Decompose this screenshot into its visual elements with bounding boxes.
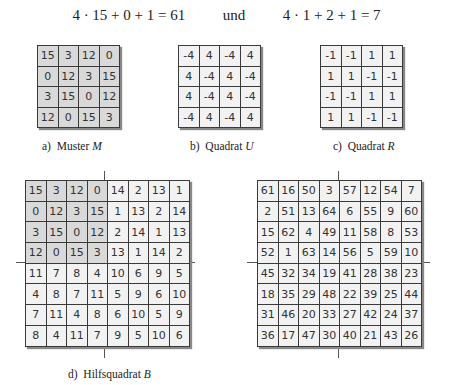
grid-cell: 15	[79, 107, 100, 128]
grid-cell: -1	[382, 107, 403, 128]
grid-cell: 12	[46, 201, 67, 222]
grid-row: -44-44	[179, 107, 261, 128]
grid-cell: 10	[401, 243, 422, 264]
grid-cell: 13	[169, 222, 190, 243]
grid-cell: 7	[46, 263, 67, 284]
grid-cell: 13	[299, 201, 320, 222]
equation-connector: und	[223, 7, 246, 24]
grid-cell: 9	[128, 284, 149, 305]
grid-cell: 8	[381, 222, 402, 243]
grid-row: 153120142131	[26, 181, 190, 202]
grid-row: -1-111	[321, 87, 403, 108]
grid-cell: 1	[341, 107, 362, 128]
grid-cell: 60	[401, 201, 422, 222]
grid-cell: 12	[38, 107, 59, 128]
grid-cell: 4	[87, 263, 108, 284]
grid-row: 2511364655960	[258, 201, 422, 222]
grid-cell: -1	[362, 107, 383, 128]
grid-cell: 32	[278, 263, 299, 284]
grid-cell: 12	[87, 222, 108, 243]
grid-cell: 1	[362, 46, 383, 67]
grid-cell: 9	[381, 201, 402, 222]
grid-cell: -4	[240, 66, 261, 87]
grid-cell: -1	[362, 66, 383, 87]
grid-cell: 12	[58, 66, 79, 87]
grid-cell: 4	[299, 222, 320, 243]
grid-cell: 41	[340, 263, 361, 284]
grid-cell: 11	[67, 325, 88, 346]
quadrat-r-grid: -1-11111-1-1-1-11111-1-1	[320, 45, 403, 128]
grid-cell: 52	[258, 243, 279, 264]
grid-cell: 21	[360, 325, 381, 346]
grid-cell: 50	[299, 181, 320, 202]
grid-cell: -4	[199, 66, 220, 87]
grid-row: 61165035712547	[258, 181, 422, 202]
grid-cell: 6	[149, 284, 170, 305]
grid-cell: 5	[108, 284, 129, 305]
grid-cell: 44	[401, 284, 422, 305]
grid-cell: 10	[108, 263, 129, 284]
grid-cell: 17	[278, 325, 299, 346]
grid-cell: 3	[58, 46, 79, 67]
grid-cell: 1	[169, 181, 190, 202]
grid-cell: 14	[108, 181, 129, 202]
grid-row: -1-111	[321, 46, 403, 67]
grid-cell: 13	[128, 201, 149, 222]
grid-row: 8411795106	[26, 325, 190, 346]
grid-cell: 59	[381, 243, 402, 264]
grid-row: 012315	[38, 66, 120, 87]
grid-row: 11-1-1	[321, 107, 403, 128]
grid-cell: 36	[258, 325, 279, 346]
grid-cell: 11	[340, 222, 361, 243]
grid-cell: 15	[99, 66, 120, 87]
grid-cell: 15	[38, 46, 59, 67]
grid-cell: 1	[341, 66, 362, 87]
grid-cell: 6	[128, 263, 149, 284]
grid-cell: 16	[278, 181, 299, 202]
grid-cell: 15	[46, 222, 67, 243]
grid-cell: 31	[258, 305, 279, 326]
grid-row: 15624491158853	[258, 222, 422, 243]
grid-cell: 29	[299, 284, 320, 305]
grid-cell: 3	[26, 222, 47, 243]
grid-cell: 20	[299, 305, 320, 326]
grid-cell: 5	[169, 263, 190, 284]
grid-cell: 45	[258, 263, 279, 284]
grid-row: 4-44-4	[179, 66, 261, 87]
grid-cell: 25	[381, 284, 402, 305]
grid-cell: 12	[26, 243, 47, 264]
grid-cell: 3	[319, 181, 340, 202]
grid-cell: 1	[382, 87, 403, 108]
grid-cell: 9	[169, 305, 190, 326]
grid-cell: 12	[360, 181, 381, 202]
grid-cell: 58	[360, 222, 381, 243]
grid-cell: 7	[87, 325, 108, 346]
grid-cell: -4	[179, 46, 200, 67]
grid-cell: 0	[79, 87, 100, 108]
equation-left: 4 · 15 + 0 + 1 = 61	[72, 7, 185, 24]
grid-cell: 15	[67, 243, 88, 264]
hilfsquadrat-b-grid: 1531201421310123151132143150122141131201…	[25, 180, 190, 347]
grid-cell: -4	[240, 87, 261, 108]
grid-cell: 39	[360, 284, 381, 305]
grid-cell: 4	[26, 284, 47, 305]
grid-cell: -1	[321, 46, 342, 67]
grid-cell: -1	[321, 87, 342, 108]
grid-cell: 63	[299, 243, 320, 264]
grid-cell: 4	[199, 107, 220, 128]
grid-cell: 33	[319, 305, 340, 326]
grid-cell: 14	[128, 222, 149, 243]
grid-cell: 47	[299, 325, 320, 346]
grid-cell: 2	[169, 243, 190, 264]
grid-cell: 14	[169, 201, 190, 222]
grid-cell: 13	[108, 243, 129, 264]
grid-cell: 38	[381, 263, 402, 284]
grid-cell: 19	[319, 263, 340, 284]
grid-cell: 42	[360, 305, 381, 326]
grid-cell: 26	[401, 325, 422, 346]
grid-cell: 1	[108, 201, 129, 222]
grid-row: 153120	[38, 46, 120, 67]
grid-cell: 12	[67, 181, 88, 202]
grid-cell: 1	[382, 46, 403, 67]
grid-cell: 22	[340, 284, 361, 305]
